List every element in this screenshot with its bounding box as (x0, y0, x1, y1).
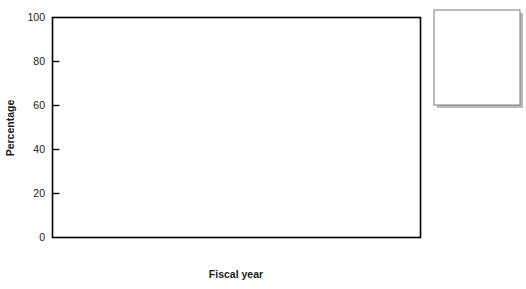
y-axis-title: Percentage (4, 100, 16, 157)
y-tick-label: 100 (27, 11, 45, 23)
x-axis-title: Fiscal year (209, 268, 263, 280)
y-tick-label: 60 (33, 99, 45, 111)
y-tick-label: 20 (33, 187, 45, 199)
legend (434, 10, 523, 108)
y-tick-label: 80 (33, 55, 45, 67)
stacked-area-chart: Percentage Fiscal year 020406080100 (0, 0, 526, 289)
y-tick-label: 0 (39, 231, 45, 243)
y-tick-label: 40 (33, 143, 45, 155)
legend-box (434, 10, 520, 105)
